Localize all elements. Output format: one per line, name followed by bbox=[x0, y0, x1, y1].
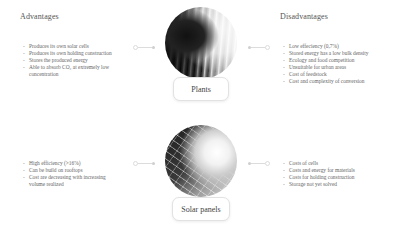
comparison-diagram: Advantages Disadvantages Produces its ow… bbox=[0, 0, 401, 231]
connector-line bbox=[251, 47, 265, 48]
list-item: Cost are decreasing with increasing volu… bbox=[23, 174, 118, 188]
list-item: Storage not yet solved bbox=[283, 181, 395, 188]
solar-right-connector bbox=[248, 161, 270, 166]
solar-panels-image bbox=[165, 125, 237, 197]
plants-right-connector bbox=[248, 45, 270, 50]
list-item: Ecology and food competition bbox=[283, 57, 395, 64]
list-item: Unsuitable for urban areas bbox=[283, 64, 395, 71]
connector-line bbox=[138, 163, 152, 164]
connector-line bbox=[138, 47, 152, 48]
list-item: Stores the produced energy bbox=[23, 57, 115, 64]
solar-panels-label: Solar panels bbox=[172, 197, 230, 221]
list-item: Costs for holding construction bbox=[283, 174, 395, 181]
connector-line bbox=[251, 163, 265, 164]
plants-left-connector bbox=[133, 45, 155, 50]
solar-disadvantages-list: Costs of cells Costs and energy for mate… bbox=[283, 160, 395, 188]
advantages-heading: Advantages bbox=[20, 12, 59, 21]
plants-image bbox=[165, 7, 237, 79]
solar-left-connector bbox=[133, 161, 155, 166]
connector-dot-icon bbox=[152, 46, 155, 49]
list-item: Low effeciency (0,7%) bbox=[283, 43, 395, 50]
list-item: Costs of cells bbox=[283, 160, 395, 167]
list-item: Able to absorb CO₂ at extremely low conc… bbox=[23, 64, 115, 78]
list-item: Can be build on rooftops bbox=[23, 167, 118, 174]
plants-advantages-list: Produces its own solar cells Produces it… bbox=[23, 43, 115, 78]
list-item: Cost of feedstock bbox=[283, 71, 395, 78]
list-item: Cost and complexity of conversion bbox=[283, 78, 395, 85]
list-item: Stored energy has a low bulk density bbox=[283, 50, 395, 57]
disadvantages-heading: Disadvantages bbox=[280, 12, 328, 21]
connector-ring-icon bbox=[265, 161, 270, 166]
list-item: Costs and energy for materials bbox=[283, 167, 395, 174]
plants-label: Plants bbox=[173, 77, 229, 101]
connector-ring-icon bbox=[265, 45, 270, 50]
list-item: Produces its own solar cells bbox=[23, 43, 115, 50]
list-item: High efficiency (>16%) bbox=[23, 160, 118, 167]
plants-disadvantages-list: Low effeciency (0,7%) Stored energy has … bbox=[283, 43, 395, 84]
list-item: Produces its own holding construction bbox=[23, 50, 115, 57]
solar-advantages-list: High efficiency (>16%) Can be build on r… bbox=[23, 160, 118, 188]
connector-dot-icon bbox=[152, 162, 155, 165]
